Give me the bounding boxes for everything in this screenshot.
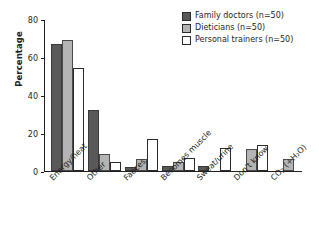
y-tick-label: 80: [8, 16, 38, 25]
chart-legend: Family doctors (n=50)Dieticians (n=50)Pe…: [182, 11, 293, 45]
legend-item: Family doctors (n=50): [182, 11, 293, 21]
legend-label: Personal trainers (n=50): [195, 35, 293, 45]
bar: [147, 139, 158, 171]
y-tick-label: 40: [8, 92, 38, 101]
y-tick-mark: [41, 20, 44, 21]
legend-label: Family doctors (n=50): [195, 11, 284, 21]
bar: [110, 162, 121, 171]
legend-label: Dieticians (n=50): [195, 23, 265, 33]
bar: [51, 44, 62, 171]
legend-swatch-icon: [182, 36, 191, 45]
y-tick-label: 20: [8, 130, 38, 139]
bar-group: [125, 20, 158, 171]
y-tick-label: 0: [8, 168, 38, 177]
legend-item: Dieticians (n=50): [182, 23, 293, 33]
legend-item: Personal trainers (n=50): [182, 35, 293, 45]
y-tick-mark: [41, 58, 44, 59]
legend-swatch-icon: [182, 12, 191, 21]
bar-chart-figure: Percentage 020406080 Energy/heatOtherFae…: [0, 0, 319, 244]
y-tick-label: 60: [8, 54, 38, 63]
y-tick-mark: [41, 172, 44, 173]
bar-group: [88, 20, 121, 171]
y-tick-mark: [41, 96, 44, 97]
legend-swatch-icon: [182, 24, 191, 33]
y-tick-mark: [41, 134, 44, 135]
